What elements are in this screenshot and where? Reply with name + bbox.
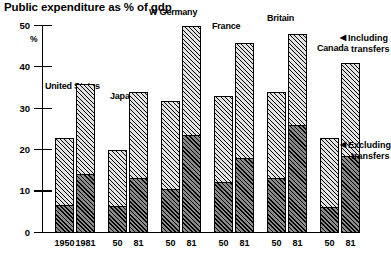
plot-area: 50 40 30 20 10 0 United States 1950 19 [42, 26, 338, 233]
x-tick-label-us-1981: 1981 [75, 238, 95, 248]
bar-lower-france-50 [214, 182, 233, 233]
x-tick-label-britain-50: 50 [271, 238, 281, 248]
legend-including-transfers-line2: transfers [351, 44, 390, 55]
bar-lower-united-states-1950 [55, 205, 74, 233]
legend-excluding-transfers-line2: transfers [351, 151, 391, 162]
left-arrow-icon: ◀ [340, 140, 346, 151]
x-tick-label-japan-81: 81 [133, 238, 143, 248]
legend-including-transfers-line1: Including [348, 33, 388, 43]
bar-w-germany-81[interactable] [182, 26, 201, 233]
bar-group-france: France 50 81 [214, 26, 256, 233]
legend-excluding-transfers: ◀Excluding transfers [340, 140, 391, 161]
group-label-britain: Britain [267, 13, 294, 23]
bar-britain-50[interactable] [267, 92, 286, 233]
bar-group-united-states: United States 1950 1981 [55, 26, 97, 233]
y-tick-label-10: 10 [19, 185, 30, 196]
bar-united-states-1950[interactable] [55, 138, 74, 233]
bar-lower-britain-50 [267, 178, 286, 234]
x-tick-label-us-1950: 1950 [54, 238, 74, 248]
bar-france-50[interactable] [214, 96, 233, 233]
y-tick-10: 10 [34, 190, 52, 191]
y-tick-label-40: 40 [19, 61, 30, 72]
bar-lower-japan-50 [108, 206, 127, 233]
y-axis-line [42, 26, 43, 233]
bar-lower-britain-81 [288, 125, 307, 233]
bar-lower-w-germany-81 [182, 135, 201, 233]
bar-lower-canada-81 [341, 156, 360, 233]
bar-group-canada: Canada 50 81 [320, 26, 362, 233]
bar-france-81[interactable] [235, 43, 254, 233]
bar-w-germany-50[interactable] [161, 101, 180, 233]
x-tick-label-france-50: 50 [218, 238, 228, 248]
x-tick-label-france-81: 81 [239, 238, 249, 248]
bar-japan-50[interactable] [108, 150, 127, 233]
x-tick-label-canada-50: 50 [324, 238, 334, 248]
y-axis-unit-label: % [30, 34, 38, 44]
bar-canada-50[interactable] [320, 138, 339, 233]
x-tick-label-canada-81: 81 [345, 238, 355, 248]
y-tick-20: 20 [34, 149, 52, 150]
x-tick-label-wgermany-50: 50 [165, 238, 175, 248]
y-tick-label-20: 20 [19, 144, 30, 155]
y-tick-40: 40 [34, 66, 52, 67]
bar-group-britain: Britain 50 81 [267, 26, 309, 233]
x-tick-label-wgermany-81: 81 [186, 238, 196, 248]
y-tick-label-0: 0 [25, 226, 30, 237]
left-arrow-icon: ◀ [340, 33, 346, 44]
group-label-france: France [212, 21, 240, 31]
x-tick-label-japan-50: 50 [112, 238, 122, 248]
bar-group-japan: Japan 50 81 [108, 26, 150, 233]
y-tick-label-30: 30 [19, 102, 30, 113]
legend-including-transfers: ◀Including transfers [340, 33, 390, 54]
bar-britain-81[interactable] [288, 34, 307, 233]
y-tick-label-50: 50 [19, 19, 30, 30]
bar-united-states-1981[interactable] [76, 84, 95, 233]
bar-lower-w-germany-50 [161, 189, 180, 233]
chart-title: Public expenditure as % of gdp [4, 1, 172, 13]
bar-japan-81[interactable] [129, 92, 148, 233]
bar-lower-france-81 [235, 158, 254, 233]
y-tick-30: 30 [34, 108, 52, 109]
x-tick-label-britain-81: 81 [292, 238, 302, 248]
bar-group-w-germany: W Germany 50 81 [161, 26, 203, 233]
bar-lower-canada-50 [320, 207, 339, 233]
bar-lower-united-states-1981 [76, 174, 95, 233]
y-tick-50: 50 [34, 25, 52, 26]
legend-excluding-transfers-line1: Excluding [348, 140, 391, 150]
y-tick-0: 0 [34, 232, 52, 233]
group-label-w-germany: W Germany [149, 7, 197, 17]
bar-lower-japan-81 [129, 178, 148, 234]
